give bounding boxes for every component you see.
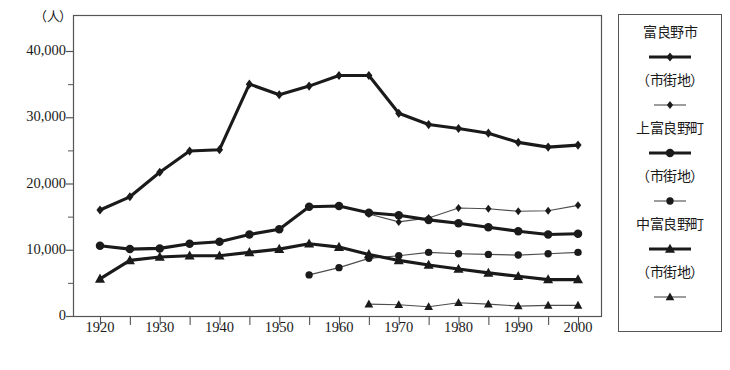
- series-3: [305, 249, 581, 279]
- legend-item-sample: [619, 285, 721, 309]
- data-point-diamond: [574, 140, 581, 149]
- data-point-circle: [96, 242, 104, 250]
- data-point-circle: [365, 208, 373, 216]
- series-line: [100, 76, 578, 211]
- series-0: [96, 71, 581, 215]
- figure-root: （人） 010,00020,00030,00040,000 1920193019…: [0, 0, 730, 370]
- legend-marker-diamond: [652, 96, 688, 114]
- chart-plot-area: （人） 010,00020,00030,00040,000 1920193019…: [0, 0, 612, 345]
- legend-item-sample: [619, 45, 721, 69]
- data-point-diamond: [455, 204, 461, 212]
- data-point-diamond: [515, 138, 522, 147]
- data-point-diamond: [545, 207, 551, 215]
- chart-legend: 富良野市（市街地）上富良野町（市街地）中富良野町（市街地）: [618, 14, 722, 332]
- line-chart-svg: [0, 0, 612, 345]
- data-point-diamond: [545, 142, 552, 151]
- data-point-circle: [335, 202, 343, 210]
- legend-item-label: 富良野市: [619, 21, 721, 45]
- legend-label-text: 中富良野町: [636, 218, 704, 232]
- legend-label-text: 富良野市: [643, 26, 697, 40]
- data-point-circle: [305, 202, 313, 210]
- legend-item-label: 中富良野町: [619, 213, 721, 237]
- data-point-circle: [215, 238, 223, 246]
- legend-label-text: （市街地）: [636, 170, 704, 184]
- data-point-circle: [485, 251, 492, 258]
- legend-marker-triangle: [647, 240, 693, 258]
- series-5: [365, 298, 583, 310]
- legend-item-sample: [619, 189, 721, 213]
- data-point-triangle: [574, 301, 583, 309]
- data-point-circle: [454, 219, 462, 227]
- data-point-circle: [424, 216, 432, 224]
- data-point-circle: [484, 223, 492, 231]
- data-point-diamond: [667, 101, 673, 109]
- legend-item-sample: [619, 141, 721, 165]
- legend-item-label: （市街地）: [619, 165, 721, 189]
- data-point-circle: [544, 230, 552, 238]
- data-point-circle: [544, 250, 551, 257]
- data-point-circle: [425, 249, 432, 256]
- legend-item-label: （市街地）: [619, 69, 721, 93]
- data-point-diamond: [276, 90, 283, 99]
- data-point-circle: [305, 271, 312, 278]
- data-point-diamond: [425, 120, 432, 129]
- data-point-diamond: [96, 205, 103, 214]
- data-point-diamond: [575, 201, 581, 209]
- legend-item-sample: [619, 93, 721, 117]
- data-point-circle: [185, 240, 193, 248]
- data-point-circle: [156, 244, 164, 252]
- legend-marker-circle: [652, 192, 688, 210]
- data-point-circle: [514, 227, 522, 235]
- data-point-triangle: [544, 301, 553, 309]
- legend-item-label: 上富良野町: [619, 117, 721, 141]
- data-point-circle: [395, 211, 403, 219]
- legend-label-text: （市街地）: [636, 266, 704, 280]
- legend-item-label: （市街地）: [619, 261, 721, 285]
- data-point-circle: [666, 197, 673, 204]
- legend-marker-circle: [647, 144, 693, 162]
- figure-caption: [66, 352, 706, 366]
- data-point-circle: [275, 225, 283, 233]
- data-point-circle: [335, 264, 342, 271]
- series-4: [95, 238, 583, 283]
- data-point-diamond: [666, 52, 673, 61]
- legend-item-sample: [619, 237, 721, 261]
- legend-label-text: 上富良野町: [636, 122, 704, 136]
- data-point-diamond: [335, 71, 342, 80]
- data-point-triangle: [666, 292, 675, 300]
- legend-marker-triangle: [652, 288, 688, 306]
- data-point-circle: [574, 230, 582, 238]
- data-point-triangle: [454, 298, 463, 306]
- data-point-circle: [245, 230, 253, 238]
- data-point-circle: [455, 250, 462, 257]
- data-point-circle: [666, 149, 674, 157]
- data-point-circle: [515, 251, 522, 258]
- legend-marker-diamond: [647, 48, 693, 66]
- legend-label-text: （市街地）: [636, 74, 704, 88]
- plot-frame: [74, 16, 602, 317]
- data-point-diamond: [455, 124, 462, 133]
- data-point-diamond: [485, 205, 491, 213]
- data-point-diamond: [515, 207, 521, 215]
- data-point-circle: [574, 249, 581, 256]
- data-point-diamond: [306, 82, 313, 91]
- data-point-triangle: [365, 299, 374, 307]
- data-point-circle: [126, 245, 134, 253]
- data-point-diamond: [485, 129, 492, 138]
- series-line: [309, 252, 578, 275]
